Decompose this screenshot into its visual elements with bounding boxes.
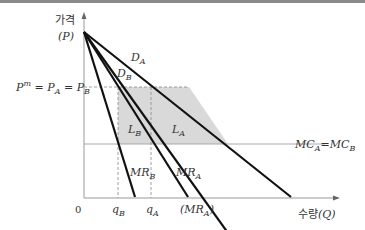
qb-label: qB	[112, 203, 125, 218]
price-label: Pm = PA = PB	[15, 79, 90, 96]
mr-a-label: MRA	[175, 166, 202, 181]
mc-label: MCA=MCB	[294, 138, 355, 153]
origin-label: 0	[75, 204, 81, 215]
x-axis-label-sym: (Q)	[318, 208, 336, 221]
pb-sub: B	[83, 87, 90, 96]
mr-b-label: MRB	[129, 166, 156, 181]
mr-a-intercept-label: (MRA)	[180, 203, 214, 218]
y-axis-arrow	[82, 12, 87, 19]
diagram: 가격 (P) 0 수량(Q) Pm = PA = PB DA DB MRA MR…	[0, 0, 365, 230]
y-axis-label-kr: 가격	[55, 14, 75, 27]
demand-a-label: DA	[130, 51, 146, 66]
y-axis-label-sym: (P)	[58, 30, 74, 43]
eq2: =	[60, 81, 76, 94]
qa-label: qA	[146, 203, 159, 218]
eq1: =	[31, 81, 47, 94]
x-axis-label-kr: 수량	[298, 208, 318, 221]
x-axis-arrow	[333, 196, 340, 201]
x-axis-label: 수량(Q)	[298, 208, 336, 221]
